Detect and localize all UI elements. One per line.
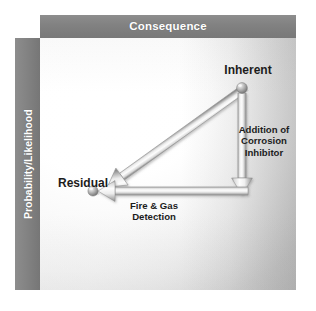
residual-label: Residual — [42, 176, 124, 190]
corrosion-inhibitor-label: Addition of Corrosion Inhibitor — [232, 124, 296, 158]
plot-area: Inherent Residual Addition of Corrosion … — [40, 38, 296, 290]
probability-axis-bar: Probability/Likelihood — [15, 38, 40, 290]
fire-gas-detection-label: Fire & Gas Detection — [106, 200, 202, 223]
inherent-node-marker — [237, 83, 249, 94]
inherent-label: Inherent — [200, 63, 296, 77]
risk-matrix-diagram: Consequence Probability/Likelihood — [0, 0, 316, 311]
consequence-axis-label: Consequence — [129, 21, 207, 33]
probability-axis-label: Probability/Likelihood — [22, 109, 33, 219]
consequence-axis-bar: Consequence — [40, 15, 296, 38]
